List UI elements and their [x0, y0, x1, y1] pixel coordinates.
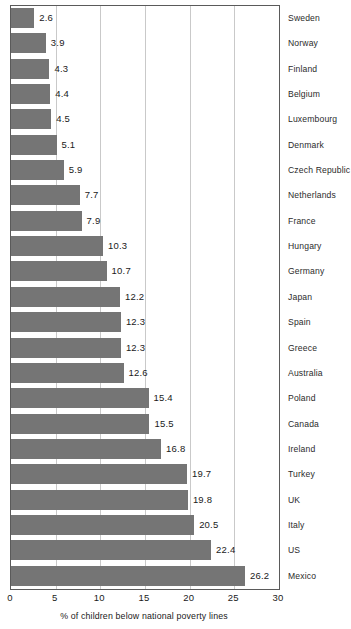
bar-row: 4.5 — [11, 107, 279, 134]
bar-value-label: 10.7 — [112, 261, 131, 281]
bars-layer: 2.63.94.34.44.55.15.97.77.910.310.712.21… — [11, 6, 279, 589]
category-label: Italy — [288, 512, 305, 539]
bar-value-label: 19.7 — [192, 464, 211, 484]
bar-value-label: 15.5 — [154, 414, 173, 434]
category-label: Sweden — [288, 5, 320, 32]
category-label: Japan — [288, 284, 312, 311]
bar — [11, 338, 121, 358]
bar — [11, 33, 46, 53]
bar-value-label: 20.5 — [199, 515, 218, 535]
category-label: Mexico — [288, 563, 316, 590]
category-label: Hungary — [288, 233, 322, 260]
bar — [11, 59, 49, 79]
category-label: Denmark — [288, 132, 324, 159]
bar — [11, 185, 80, 205]
x-tick-label: 0 — [7, 592, 12, 603]
bar-row: 12.6 — [11, 361, 279, 388]
bar-value-label: 3.9 — [51, 33, 65, 53]
bar-value-label: 16.8 — [166, 439, 185, 459]
bar-row: 16.8 — [11, 437, 279, 464]
bar-row: 15.4 — [11, 386, 279, 413]
bar — [11, 388, 149, 408]
bar — [11, 464, 187, 484]
x-tick-label: 15 — [139, 592, 150, 603]
bar — [11, 287, 120, 307]
category-label: Norway — [288, 30, 318, 57]
bar-chart: 2.63.94.34.44.55.15.97.77.910.310.712.21… — [0, 0, 351, 629]
bar-row: 7.7 — [11, 183, 279, 210]
category-label: Canada — [288, 411, 319, 438]
bar-value-label: 4.4 — [55, 84, 69, 104]
x-axis-label: % of children below national poverty lin… — [0, 611, 288, 621]
bar-row: 12.2 — [11, 285, 279, 312]
bar-value-label: 12.6 — [129, 363, 148, 383]
bar-value-label: 7.9 — [87, 211, 101, 231]
bar-value-label: 5.1 — [62, 135, 76, 155]
bar-value-label: 2.6 — [39, 8, 53, 28]
category-label: Belgium — [288, 81, 320, 108]
category-label: Greece — [288, 335, 317, 362]
category-label: Czech Republic — [288, 157, 350, 184]
bar — [11, 84, 50, 104]
category-label: Ireland — [288, 436, 315, 463]
bar — [11, 261, 107, 281]
x-tick-label: 5 — [52, 592, 57, 603]
bar-value-label: 4.5 — [56, 109, 70, 129]
category-label: Australia — [288, 360, 323, 387]
bar — [11, 109, 51, 129]
bar-value-label: 7.7 — [85, 185, 99, 205]
category-label: Finland — [288, 56, 317, 83]
bar-row: 10.7 — [11, 259, 279, 286]
bar-row: 4.4 — [11, 82, 279, 109]
bar — [11, 236, 103, 256]
bar-row: 4.3 — [11, 57, 279, 84]
category-label: Netherlands — [288, 182, 336, 209]
bar — [11, 490, 188, 510]
bar-value-label: 26.2 — [250, 566, 269, 586]
bar-value-label: 10.3 — [108, 236, 127, 256]
bar-value-label: 12.2 — [125, 287, 144, 307]
bar-row: 5.9 — [11, 158, 279, 185]
bar-row: 22.4 — [11, 538, 279, 565]
x-axis-ticks: 051015202530 — [0, 592, 351, 608]
category-label: Spain — [288, 309, 311, 336]
bar-value-label: 12.3 — [126, 338, 145, 358]
bar — [11, 312, 121, 332]
bar-value-label: 19.8 — [193, 490, 212, 510]
bar-value-label: 4.3 — [54, 59, 68, 79]
category-label: Germany — [288, 258, 324, 285]
bar — [11, 8, 34, 28]
x-tick-label: 20 — [183, 592, 194, 603]
bar — [11, 515, 194, 535]
bar-row: 19.7 — [11, 462, 279, 489]
bar-row: 10.3 — [11, 234, 279, 261]
category-label: UK — [288, 487, 300, 514]
bar-row: 26.2 — [11, 564, 279, 591]
bar-row: 7.9 — [11, 209, 279, 236]
bar-row: 12.3 — [11, 310, 279, 337]
category-label: Poland — [288, 385, 316, 412]
bar — [11, 540, 211, 560]
bar-row: 20.5 — [11, 513, 279, 540]
bar — [11, 211, 82, 231]
category-label-column: SwedenNorwayFinlandBelgiumLuxembourgDenm… — [288, 5, 351, 588]
bar-value-label: 12.3 — [126, 312, 145, 332]
bar — [11, 160, 64, 180]
bar — [11, 135, 57, 155]
bar-row: 19.8 — [11, 488, 279, 515]
bar-row: 2.6 — [11, 6, 279, 33]
x-tick-label: 10 — [94, 592, 105, 603]
category-label: Luxembourg — [288, 106, 337, 133]
bar-value-label: 22.4 — [216, 540, 235, 560]
bar — [11, 566, 245, 586]
bar — [11, 363, 124, 383]
bar-row: 3.9 — [11, 31, 279, 58]
bar-row: 12.3 — [11, 336, 279, 363]
bar-value-label: 5.9 — [69, 160, 83, 180]
category-label: US — [288, 537, 300, 564]
bar-value-label: 15.4 — [154, 388, 173, 408]
plot-area: 2.63.94.34.44.55.15.97.77.910.310.712.21… — [10, 5, 280, 590]
bar — [11, 439, 161, 459]
x-tick-label: 25 — [228, 592, 239, 603]
category-label: France — [288, 208, 316, 235]
